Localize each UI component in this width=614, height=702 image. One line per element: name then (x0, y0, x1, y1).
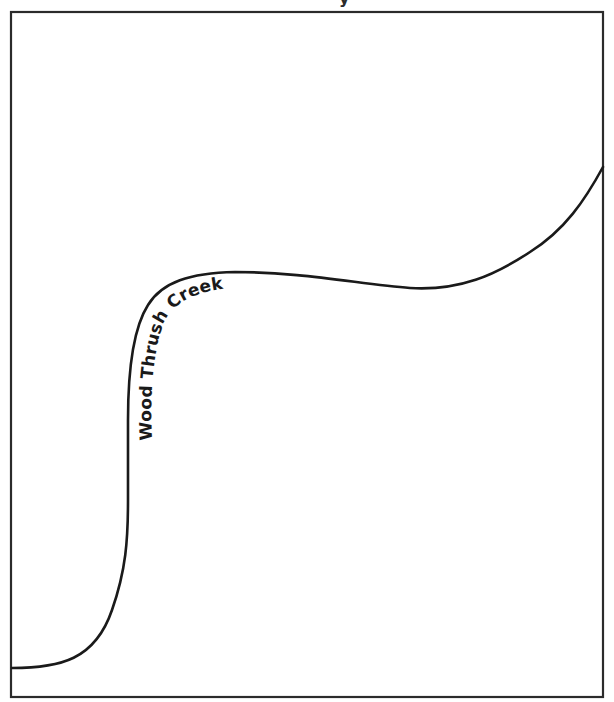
creek-label: Wood Thrush Creek (135, 273, 224, 441)
creek-label-text: Wood Thrush Creek (135, 273, 224, 441)
map-diagram: y Wood Thrush Creek (0, 0, 614, 702)
creek-line (12, 167, 603, 668)
title-fragment: y (339, 0, 350, 8)
map-frame (11, 12, 603, 697)
